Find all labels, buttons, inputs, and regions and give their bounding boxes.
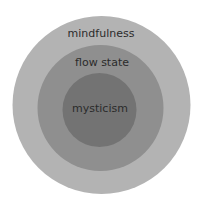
label-mindfulness: mindfulness bbox=[68, 27, 135, 40]
nested-circles-diagram: mindfulness flow state mysticism bbox=[0, 0, 202, 208]
label-flow-state: flow state bbox=[75, 56, 129, 69]
label-mysticism: mysticism bbox=[72, 102, 128, 115]
